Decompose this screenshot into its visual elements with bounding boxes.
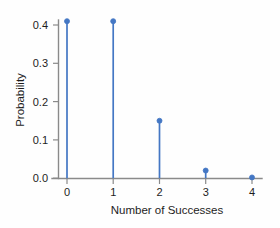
x-axis-title: Number of Successes [111,204,224,216]
probability-distribution-chart: 0.4 0.3 0.2 0.1 0.0 0 1 2 3 4 Number of … [0,0,280,228]
x-tick-label-4: 4 [249,186,255,198]
data-point-marker [111,19,116,24]
y-tick-label-0.0: 0.0 [33,172,48,184]
y-tick-label-0.2: 0.2 [33,96,48,108]
data-point-marker [65,19,70,24]
chart-canvas: 0.4 0.3 0.2 0.1 0.0 0 1 2 3 4 Number of … [0,0,280,228]
y-tick-label-0.3: 0.3 [33,57,48,69]
x-tick-label-3: 3 [203,186,209,198]
stem-series [65,19,255,180]
x-tick-label-2: 2 [156,186,162,198]
x-tick-label-1: 1 [110,186,116,198]
y-tick-label-0.1: 0.1 [33,134,48,146]
y-axis-title: Probability [14,73,26,127]
data-point-marker [203,168,208,173]
x-tick-label-0: 0 [64,186,70,198]
y-tick-label-0.4: 0.4 [33,19,48,31]
data-point-marker [250,175,255,180]
data-point-marker [157,118,162,123]
